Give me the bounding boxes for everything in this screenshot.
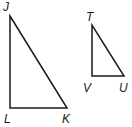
vertex-label-l: L	[4, 112, 11, 126]
triangle-jlk-outline	[10, 16, 67, 108]
vertex-label-j: J	[2, 0, 10, 14]
vertex-label-k: K	[62, 112, 71, 126]
vertex-label-t: T	[86, 10, 95, 24]
vertex-label-u: U	[119, 81, 128, 95]
triangle-jlk: J L K	[2, 0, 71, 126]
similar-triangles-diagram: J L K T V U	[0, 0, 132, 127]
vertex-label-v: V	[83, 81, 92, 95]
triangle-tvu-outline	[92, 25, 124, 76]
triangle-tvu: T V U	[83, 10, 128, 95]
